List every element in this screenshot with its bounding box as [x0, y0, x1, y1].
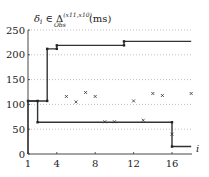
scatter-point — [65, 95, 68, 98]
y-axis-ticks: 050100150200250 — [6, 25, 30, 160]
x-axis-ticks: 1481216 — [25, 152, 179, 169]
step-marker — [123, 40, 125, 42]
y-tick-label: 250 — [6, 25, 25, 36]
title-sub-obs: Obs — [54, 21, 66, 28]
step-line-upper-bound — [28, 41, 191, 154]
title-unit: (ms) — [86, 13, 112, 24]
scatter-point — [75, 100, 78, 103]
scatter-point — [132, 99, 135, 102]
scatter-point — [190, 92, 193, 95]
x-tick-label: 4 — [54, 158, 60, 169]
step-marker — [56, 48, 58, 50]
svg-text:δi ∈ Δ(x11,x10)Obs (ms): δi ∈ Δ(x11,x10)Obs (ms) — [34, 11, 111, 28]
y-tick-label: 200 — [6, 49, 25, 60]
scatter-point — [94, 95, 97, 98]
y-tick-label: 150 — [6, 74, 25, 85]
step-marker — [36, 100, 38, 102]
data-series — [27, 40, 193, 154]
x-tick-label: 8 — [92, 158, 98, 169]
scatter-point — [142, 119, 145, 122]
step-marker — [36, 121, 38, 123]
x-tick-label: 12 — [127, 158, 140, 169]
scatter-point — [161, 94, 164, 97]
step-marker — [46, 100, 48, 102]
step-marker — [46, 48, 48, 50]
step-marker — [123, 44, 125, 46]
x-axis-label: i — [196, 143, 199, 154]
chart: 050100150200250 1481216 δi ∈ Δ(x11,x10)O… — [0, 0, 209, 177]
step-marker — [56, 44, 58, 46]
x-tick-label: 16 — [166, 158, 179, 169]
step-marker — [171, 145, 173, 147]
scatter-point — [151, 92, 154, 95]
scatter-point — [84, 91, 87, 94]
y-tick-label: 100 — [6, 99, 25, 110]
x-tick-label: 1 — [25, 158, 31, 169]
step-marker — [171, 121, 173, 123]
chart-title: δi ∈ Δ(x11,x10)Obs (ms) — [34, 11, 111, 28]
y-tick-label: 50 — [12, 124, 25, 135]
step-line-lower-bound — [28, 101, 191, 147]
